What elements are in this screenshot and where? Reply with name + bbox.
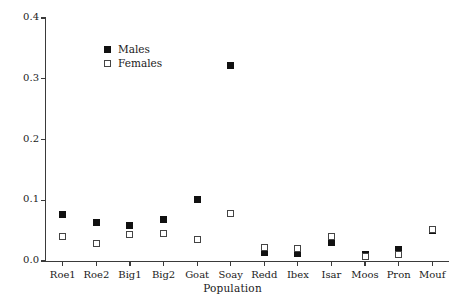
data-point-female: [93, 240, 100, 247]
x-tick-label: Big2: [152, 269, 175, 280]
tick-mark: [398, 261, 399, 266]
data-point-female: [227, 210, 234, 217]
plot-area: 0.00.10.20.30.4 Roe1Roe2Big1Big2GoatSoay…: [45, 18, 449, 262]
x-tick-label: Isar: [322, 269, 342, 280]
legend-item-males: Males: [104, 42, 162, 56]
data-point-female: [160, 230, 167, 237]
data-point-male: [328, 239, 335, 246]
data-point-female: [126, 231, 133, 238]
tick-mark: [41, 139, 46, 140]
tick-mark: [41, 17, 46, 18]
y-tick-label: 0.2: [23, 133, 39, 144]
tick-mark: [297, 261, 298, 266]
x-axis-label: Population: [0, 282, 465, 294]
x-tick-label: Mouf: [419, 269, 445, 280]
data-point-male: [126, 222, 133, 229]
tick-mark: [364, 261, 365, 266]
legend-label-males: Males: [118, 42, 150, 56]
x-tick-label: Soay: [218, 269, 242, 280]
tick-mark: [62, 261, 63, 266]
y-tick-label: 0.1: [23, 193, 39, 204]
data-point-female: [294, 245, 301, 252]
y-tick-label: 0.3: [23, 72, 39, 83]
data-point-female: [362, 253, 369, 260]
x-tick-label: Pron: [387, 269, 411, 280]
x-tick-label: Roe2: [83, 269, 109, 280]
data-point-female: [59, 233, 66, 240]
tick-mark: [432, 261, 433, 266]
y-tick-label: 0.4: [23, 11, 39, 22]
data-point-female: [261, 244, 268, 251]
legend-item-females: Females: [104, 56, 162, 70]
data-point-male: [227, 62, 234, 69]
legend-label-females: Females: [118, 56, 162, 70]
x-tick-label: Ibex: [287, 269, 309, 280]
tick-mark: [264, 261, 265, 266]
data-point-female: [395, 251, 402, 258]
tick-mark: [41, 78, 46, 79]
data-point-male: [194, 196, 201, 203]
tick-mark: [41, 200, 46, 201]
data-point-male: [93, 219, 100, 226]
x-tick-label: Moos: [351, 269, 378, 280]
tick-mark: [96, 261, 97, 266]
tick-mark: [197, 261, 198, 266]
x-tick-label: Roe1: [50, 269, 76, 280]
open-square-icon: [104, 60, 111, 67]
tick-mark: [163, 261, 164, 266]
x-tick-label: Goat: [185, 269, 209, 280]
x-tick-label: Redd: [251, 269, 277, 280]
data-point-female: [194, 236, 201, 243]
data-point-female: [429, 226, 436, 233]
x-tick-label: Big1: [118, 269, 141, 280]
chart-figure: Initial mortality rate 0.00.10.20.30.4 R…: [0, 0, 465, 307]
filled-square-icon: [104, 46, 111, 53]
tick-mark: [41, 260, 46, 261]
tick-mark: [230, 261, 231, 266]
y-tick-label: 0.0: [23, 254, 39, 265]
tick-mark: [129, 261, 130, 266]
data-point-male: [59, 211, 66, 218]
chart-legend: Males Females: [104, 42, 162, 70]
data-point-female: [328, 233, 335, 240]
tick-mark: [331, 261, 332, 266]
data-point-male: [160, 216, 167, 223]
